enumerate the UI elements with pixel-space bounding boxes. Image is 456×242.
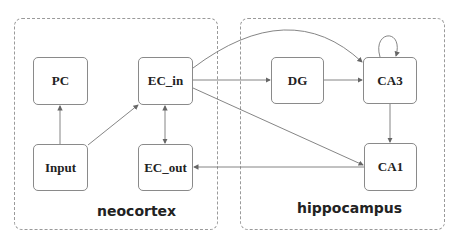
node-ca1: CA1 bbox=[364, 143, 417, 191]
neocortex-label: neocortex bbox=[97, 203, 176, 219]
hippocampus-label: hippocampus bbox=[297, 200, 402, 216]
node-ec-in: EC_in bbox=[138, 57, 193, 105]
node-dg: DG bbox=[271, 57, 324, 104]
node-pc: PC bbox=[33, 57, 88, 105]
node-ca3: CA3 bbox=[363, 57, 417, 104]
node-input: Input bbox=[33, 144, 88, 191]
node-ec-out: EC_out bbox=[138, 144, 193, 191]
